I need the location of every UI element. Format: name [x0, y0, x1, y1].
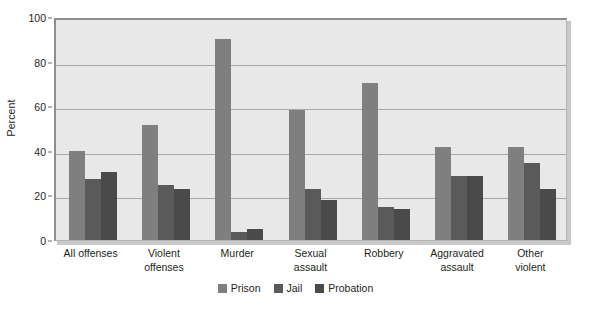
- bar: [305, 189, 321, 240]
- y-axis-tick-label: 60: [34, 102, 46, 113]
- y-axis-tick-label: 100: [28, 13, 46, 24]
- x-axis-label-line: assault: [274, 260, 347, 274]
- bar: [215, 39, 231, 240]
- legend-swatch-icon: [315, 284, 324, 293]
- legend-item-jail[interactable]: Jail: [274, 283, 303, 294]
- x-axis-label: Otherviolent: [494, 246, 567, 274]
- y-axis-tick-mark: [48, 107, 52, 108]
- x-axis-label: Violentoffenses: [127, 246, 200, 274]
- x-axis-label: Murder: [201, 246, 274, 260]
- bar: [451, 176, 467, 240]
- x-axis-label-line: Sexual: [274, 246, 347, 260]
- x-axis-label: Aggravatedassault: [420, 246, 493, 274]
- legend-swatch-icon: [274, 284, 283, 293]
- bar: [394, 209, 410, 240]
- x-axis-label-line: offenses: [127, 260, 200, 274]
- x-axis-label-line: Robbery: [347, 246, 420, 260]
- bar: [247, 229, 263, 240]
- x-axis-label-line: Violent: [127, 246, 200, 260]
- x-axis-label: All offenses: [54, 246, 127, 260]
- x-axis-label-line: Murder: [201, 246, 274, 260]
- bar: [524, 163, 540, 240]
- bar: [467, 176, 483, 240]
- x-axis-label: Sexualassault: [274, 246, 347, 274]
- y-axis-tick-label: 0: [40, 236, 46, 247]
- x-axis-label-line: violent: [494, 260, 567, 274]
- bars-layer: [56, 20, 566, 240]
- legend-label: Prison: [231, 283, 261, 294]
- x-axis-label-line: Aggravated: [420, 246, 493, 260]
- bar: [508, 147, 524, 240]
- bar: [85, 179, 101, 240]
- bar: [378, 207, 394, 240]
- y-axis-tick-mark: [48, 241, 52, 242]
- chart-legend: PrisonJailProbation: [0, 283, 591, 294]
- x-axis-label-line: assault: [420, 260, 493, 274]
- bar-chart: Percent 020406080100 All offensesViolent…: [0, 0, 591, 312]
- x-axis-label-line: Other: [494, 246, 567, 260]
- y-axis-tick-mark: [48, 18, 52, 19]
- bar-group: [142, 20, 190, 240]
- legend-label: Jail: [287, 283, 303, 294]
- bar-group: [362, 20, 410, 240]
- bar: [289, 110, 305, 240]
- y-axis-tick-label: 40: [34, 147, 46, 158]
- bar-group: [69, 20, 117, 240]
- bar-group: [215, 20, 263, 240]
- plot-area: [54, 18, 567, 241]
- bar: [142, 125, 158, 240]
- bar: [362, 83, 378, 240]
- bar-group: [508, 20, 556, 240]
- y-axis-title: Percent: [5, 88, 17, 148]
- bar: [231, 232, 247, 240]
- bar: [435, 147, 451, 240]
- y-axis-ticks: 020406080100: [18, 0, 52, 312]
- legend-item-probation[interactable]: Probation: [315, 283, 373, 294]
- x-axis-label: Robbery: [347, 246, 420, 260]
- y-axis-tick-mark: [48, 62, 52, 63]
- y-axis-tick-label: 80: [34, 57, 46, 68]
- bar-group: [289, 20, 337, 240]
- bar: [101, 172, 117, 240]
- legend-label: Probation: [328, 283, 373, 294]
- bar: [540, 189, 556, 240]
- legend-item-prison[interactable]: Prison: [218, 283, 261, 294]
- bar: [69, 151, 85, 240]
- bar: [174, 189, 190, 240]
- x-axis-label-line: All offenses: [54, 246, 127, 260]
- bar: [158, 185, 174, 240]
- y-axis-tick-mark: [48, 196, 52, 197]
- legend-swatch-icon: [218, 284, 227, 293]
- bar: [321, 200, 337, 240]
- y-axis-tick-mark: [48, 151, 52, 152]
- bar-group: [435, 20, 483, 240]
- y-axis-tick-label: 20: [34, 191, 46, 202]
